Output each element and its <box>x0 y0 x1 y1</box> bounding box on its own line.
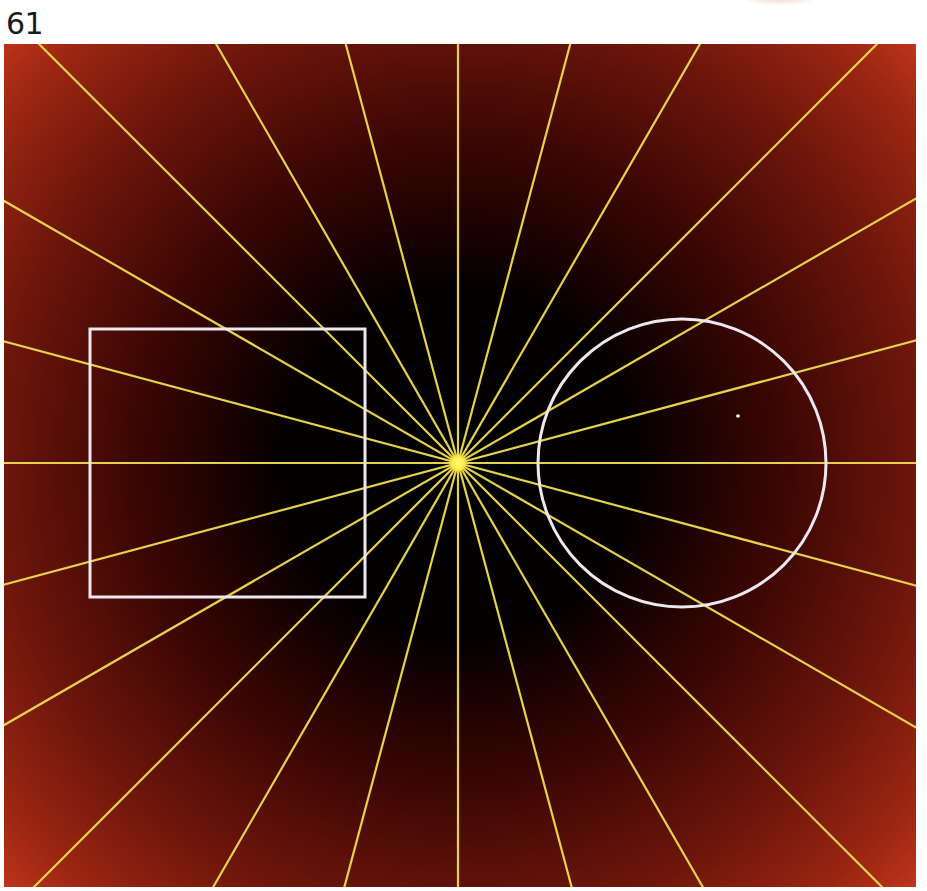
speck-dot <box>736 414 740 418</box>
starburst-center <box>449 454 467 472</box>
page-number: 61 <box>6 6 43 42</box>
illusion-figure <box>4 44 916 887</box>
illusion-canvas <box>4 44 916 887</box>
scan-artifact <box>735 0 825 6</box>
